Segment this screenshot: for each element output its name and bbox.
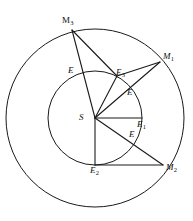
segment-s-to-e3 <box>95 76 117 118</box>
label-s-center: S <box>79 113 84 122</box>
label-e-lower-right: E <box>129 130 135 139</box>
figure-canvas <box>0 0 193 221</box>
label-e1: E1 <box>137 120 146 129</box>
label-e3: E3 <box>116 68 125 77</box>
segment-s-to-m2 <box>95 118 163 165</box>
label-e-upper-left: E <box>68 66 74 75</box>
label-m1: M1 <box>163 52 174 61</box>
segment-m3-to-e3 <box>72 30 117 76</box>
label-e-upper-right: E <box>127 88 133 97</box>
label-m3: M3 <box>62 16 73 25</box>
label-m2: M2 <box>166 163 177 172</box>
geometry-figure: M3 M1 M2 E1 E2 E3 E E E S <box>0 0 193 221</box>
label-e2: E2 <box>90 166 99 175</box>
segment-s-to-m3 <box>72 30 95 118</box>
